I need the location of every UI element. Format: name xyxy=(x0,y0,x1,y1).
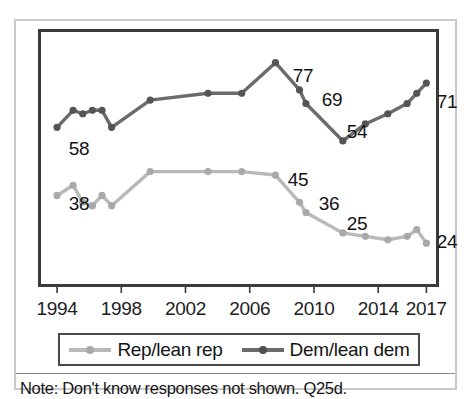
data-point xyxy=(423,79,430,86)
legend-item-dem[interactable]: Dem/lean dem xyxy=(241,339,410,361)
data-point xyxy=(384,110,391,117)
data-point xyxy=(238,90,245,97)
data-point xyxy=(89,202,96,209)
data-point xyxy=(79,110,86,117)
data-point xyxy=(70,107,77,114)
data-point xyxy=(272,59,279,66)
data-point-label: 77 xyxy=(293,65,314,87)
data-point-label: 25 xyxy=(347,213,368,235)
data-point xyxy=(403,100,410,107)
data-point-label: 24 xyxy=(437,231,458,253)
data-point xyxy=(339,137,346,144)
data-point xyxy=(238,168,245,175)
data-point xyxy=(423,240,430,247)
legend-swatch-rep-icon xyxy=(68,343,112,357)
data-point xyxy=(413,90,420,97)
data-point xyxy=(403,233,410,240)
legend-item-rep[interactable]: Rep/lean rep xyxy=(68,339,222,361)
data-point-label: 36 xyxy=(319,193,340,215)
x-axis-ticks xyxy=(38,285,439,295)
note-text: Note: Don't know responses not shown. Q2… xyxy=(20,379,451,398)
data-point xyxy=(108,124,115,131)
chart-legend: Rep/lean rep Dem/lean dem xyxy=(58,333,420,366)
x-tick-label: 2006 xyxy=(229,298,270,320)
data-point xyxy=(147,97,154,104)
data-point xyxy=(204,90,211,97)
legend-label-dem: Dem/lean dem xyxy=(290,339,410,361)
x-tick-label: 1994 xyxy=(37,298,78,320)
data-point xyxy=(89,107,96,114)
data-point-label: 69 xyxy=(322,89,343,111)
data-point xyxy=(53,124,60,131)
figure-container: 58387769547145362524 1994199820022006201… xyxy=(14,19,457,390)
legend-swatch-dem-icon xyxy=(241,343,285,357)
x-tick-label: 1998 xyxy=(101,298,142,320)
data-point-label: 45 xyxy=(288,169,309,191)
chart-lines-svg xyxy=(41,32,436,284)
x-axis-tick-labels: 1994199820022006201020142017 xyxy=(38,298,439,324)
x-tick-label: 2014 xyxy=(358,298,399,320)
data-point xyxy=(302,209,309,216)
data-point-label: 38 xyxy=(69,193,90,215)
x-tick-label: 2010 xyxy=(293,298,334,320)
data-point xyxy=(339,229,346,236)
data-point xyxy=(53,192,60,199)
data-point xyxy=(70,182,77,189)
data-point xyxy=(204,168,211,175)
data-point xyxy=(413,226,420,233)
data-point-label: 58 xyxy=(69,138,90,160)
data-point xyxy=(108,202,115,209)
x-tick-label: 2017 xyxy=(406,298,447,320)
note-bar: Note: Don't know responses not shown. Q2… xyxy=(16,373,455,398)
data-point xyxy=(296,86,303,93)
data-point xyxy=(98,192,105,199)
x-tick-label: 2002 xyxy=(165,298,206,320)
plot-area: 58387769547145362524 xyxy=(38,29,439,287)
data-point xyxy=(384,236,391,243)
data-point xyxy=(302,100,309,107)
data-point-label: 71 xyxy=(437,91,458,113)
legend-label-rep: Rep/lean rep xyxy=(117,339,222,361)
data-point xyxy=(272,171,279,178)
data-point xyxy=(98,107,105,114)
data-point xyxy=(296,199,303,206)
data-point-label: 54 xyxy=(347,121,368,143)
data-point xyxy=(147,168,154,175)
